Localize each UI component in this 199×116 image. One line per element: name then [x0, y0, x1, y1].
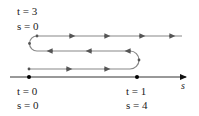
path-point-turn-left: [28, 42, 31, 45]
label-top-t: t = 3: [17, 5, 37, 17]
axis-point-s0: [27, 75, 31, 79]
path-point-top-start: [36, 35, 39, 38]
path-point-start: [28, 68, 31, 71]
trajectory-path: [29, 36, 182, 69]
axis-label-s: s: [181, 80, 185, 92]
label-left-t: t = 0: [17, 85, 37, 97]
path-point-turn-right: [138, 59, 141, 62]
label-left-s: s = 0: [17, 99, 38, 111]
direction-arrows: [49, 36, 173, 69]
label-top-s: s = 0: [17, 20, 38, 32]
label-right-t: t = 1: [126, 85, 146, 97]
label-right-s: s = 4: [126, 99, 147, 111]
axis-point-s4: [135, 75, 139, 79]
